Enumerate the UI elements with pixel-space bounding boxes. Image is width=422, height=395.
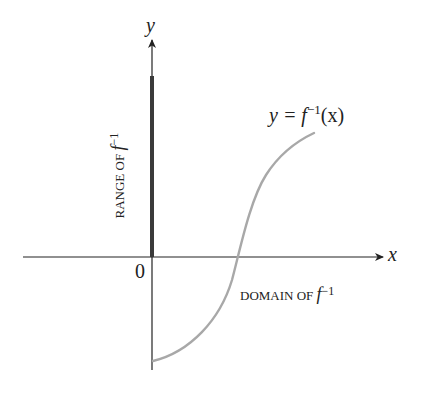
inverse-function-diagram — [0, 0, 422, 395]
curve-label: y = f−1(x) — [269, 102, 344, 127]
x-axis-label: x — [388, 243, 397, 266]
origin-label: 0 — [135, 260, 145, 283]
y-axis-label: y — [146, 14, 155, 37]
domain-label-text: DOMAIN OF — [240, 288, 317, 303]
range-label-func: f — [108, 146, 128, 151]
curve-label-prefix: y = f — [269, 104, 307, 126]
domain-label: DOMAIN OF f−1 — [240, 284, 334, 305]
range-label-superscript: −1 — [107, 133, 121, 146]
range-label-text: RANGE OF — [112, 151, 127, 219]
range-label: RANGE OF f−1 — [107, 116, 128, 236]
domain-label-superscript: −1 — [322, 284, 335, 298]
inverse-curve — [153, 133, 314, 361]
curve-label-superscript: −1 — [307, 102, 321, 117]
curve-label-suffix: (x) — [321, 104, 344, 126]
